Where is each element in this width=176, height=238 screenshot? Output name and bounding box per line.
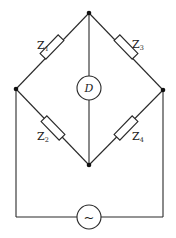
junction-top [87,11,92,16]
junction-left [14,87,19,92]
ac-source-icon: ~ [84,210,95,225]
junction-bottom [87,163,92,168]
bridge-circuit-diagram: D ~ Z1 Z3 Z2 Z4 [0,0,176,238]
z2-label: Z2 [37,130,49,144]
z1-label: Z1 [37,39,49,53]
detector-label: D [84,82,94,95]
z3-label: Z3 [132,38,144,52]
z4-label: Z4 [132,130,144,144]
junction-right [161,88,166,93]
